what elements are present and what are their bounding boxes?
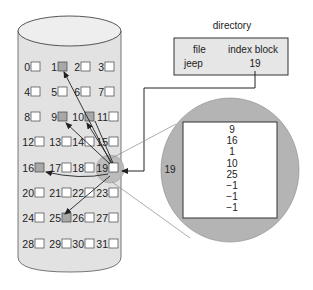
- free-block-square: [85, 239, 94, 248]
- block-number: 2: [74, 61, 80, 73]
- free-block-square: [31, 112, 40, 121]
- magnified-block-label: 19: [164, 164, 176, 175]
- index-entry: 16: [226, 135, 238, 146]
- disk-block-19: 19: [96, 162, 118, 174]
- disk-block-4: 4: [24, 86, 40, 98]
- block-number: 21: [49, 187, 61, 199]
- disk-block-27: 27: [96, 212, 118, 224]
- disk-block-17: 17: [49, 162, 71, 174]
- index-block-value: 19: [249, 58, 261, 69]
- used-block-square: [62, 213, 71, 222]
- disk-block-26: 26: [72, 212, 94, 224]
- free-block-square: [109, 112, 118, 121]
- block-number: 14: [72, 136, 84, 148]
- free-block-square: [105, 62, 114, 71]
- block-number: 13: [49, 136, 61, 148]
- disk-block-23: 23: [96, 187, 118, 199]
- block-number: 8: [24, 111, 30, 123]
- free-block-square: [109, 239, 118, 248]
- magnified-index-block: 19 91611025−1−1−1: [161, 98, 299, 242]
- disk-block-3: 3: [98, 61, 114, 73]
- free-block-square: [31, 87, 40, 96]
- disk-block-24: 24: [22, 212, 44, 224]
- free-block-square: [35, 188, 44, 197]
- disk-block-20: 20: [22, 187, 44, 199]
- block-number: 7: [98, 86, 104, 98]
- directory-table: directory file index block jeep 19: [174, 20, 288, 75]
- free-block-square: [62, 163, 71, 172]
- disk-block-2: 2: [74, 61, 90, 73]
- used-block-square: [35, 163, 44, 172]
- block-number: 6: [74, 86, 80, 98]
- block-number: 26: [72, 212, 84, 224]
- header-index-block: index block: [228, 44, 279, 55]
- block-number: 4: [24, 86, 30, 98]
- free-block-square: [62, 188, 71, 197]
- free-block-square: [62, 137, 71, 146]
- block-number: 12: [22, 136, 34, 148]
- free-block-square: [35, 239, 44, 248]
- file-name-jeep: jeep: [183, 58, 203, 69]
- used-block-square: [85, 112, 94, 121]
- free-block-square: [35, 213, 44, 222]
- block-number: 25: [49, 212, 61, 224]
- block-number: 22: [72, 187, 84, 199]
- index-entries: 91611025−1−1−1: [226, 124, 238, 213]
- free-block-square: [109, 213, 118, 222]
- disk-block-29: 29: [49, 238, 71, 250]
- block-number: 18: [72, 162, 84, 174]
- free-block-square: [35, 137, 44, 146]
- disk-block-5: 5: [51, 86, 67, 98]
- block-number: 17: [49, 162, 61, 174]
- disk-block-12: 12: [22, 136, 44, 148]
- free-block-square: [31, 62, 40, 71]
- used-block-square: [58, 112, 67, 121]
- header-file: file: [193, 44, 206, 55]
- block-number: 29: [49, 238, 61, 250]
- block-number: 0: [24, 61, 30, 73]
- indexed-allocation-diagram: 0123456789101112131415161718192021222324…: [0, 0, 313, 290]
- disk-block-25: 25: [49, 212, 71, 224]
- free-block-square: [81, 62, 90, 71]
- block-number: 1: [51, 61, 57, 73]
- index-entry: 25: [226, 169, 238, 180]
- index-entry: −1: [226, 202, 238, 213]
- free-block-square: [85, 163, 94, 172]
- index-entry: −1: [226, 180, 238, 191]
- directory-title: directory: [213, 20, 251, 31]
- free-block-square: [81, 87, 90, 96]
- used-block-square: [58, 62, 67, 71]
- free-block-square: [109, 137, 118, 146]
- disk-block-28: 28: [22, 238, 44, 250]
- index-entry: 1: [229, 146, 235, 157]
- block-number: 16: [22, 162, 34, 174]
- disk-block-10: 10: [72, 111, 94, 123]
- block-number: 3: [98, 61, 104, 73]
- block-number: 19: [96, 162, 108, 174]
- block-number: 28: [22, 238, 34, 250]
- index-entry: 9: [229, 124, 235, 135]
- disk-block-18: 18: [72, 162, 94, 174]
- disk-block-31: 31: [96, 238, 118, 250]
- free-block-square: [105, 87, 114, 96]
- free-block-square: [109, 188, 118, 197]
- block-number: 30: [72, 238, 84, 250]
- index-entry: 10: [226, 158, 238, 169]
- disk-block-9: 9: [51, 111, 67, 123]
- block-number: 10: [72, 111, 84, 123]
- free-block-square: [58, 87, 67, 96]
- disk-block-13: 13: [49, 136, 71, 148]
- disk-block-30: 30: [72, 238, 94, 250]
- block-number: 31: [96, 238, 108, 250]
- block-number: 27: [96, 212, 108, 224]
- disk-block-1: 1: [51, 61, 67, 73]
- block-number: 24: [22, 212, 34, 224]
- block-number: 9: [51, 111, 57, 123]
- block-number: 5: [51, 86, 57, 98]
- free-block-square: [62, 239, 71, 248]
- block-number: 11: [97, 111, 108, 123]
- free-block-square: [109, 163, 118, 172]
- index-entry: −1: [226, 191, 238, 202]
- free-block-square: [85, 213, 94, 222]
- disk-block-11: 11: [97, 111, 118, 123]
